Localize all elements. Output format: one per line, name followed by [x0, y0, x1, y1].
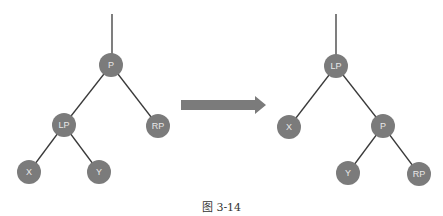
node-label: Y [345, 168, 351, 178]
node-lp: LP [52, 113, 76, 137]
node-rp: RP [146, 114, 170, 138]
node-label: LP [330, 61, 341, 71]
node-label: LP [58, 120, 69, 130]
node-lp: LP [324, 54, 348, 78]
node-label: X [26, 167, 32, 177]
node-y: Y [336, 161, 360, 185]
node-label: P [108, 60, 114, 70]
arrow-right-icon [181, 96, 266, 114]
rotation-diagram: PLPRPXYLPXPYRP [0, 0, 443, 216]
node-x: X [17, 160, 41, 184]
tree-after: LPXPYRP [277, 14, 431, 186]
tree-before: PLPRPXY [17, 14, 170, 184]
node-label: P [380, 121, 386, 131]
node-p: P [99, 53, 123, 77]
node-rp: RP [407, 162, 431, 186]
figure-caption: 图 3-14 [0, 198, 443, 214]
node-label: RP [413, 169, 426, 179]
node-label: X [286, 122, 292, 132]
node-x: X [277, 115, 301, 139]
node-label: RP [152, 121, 165, 131]
node-y: Y [87, 160, 111, 184]
node-p: P [371, 114, 395, 138]
node-label: Y [96, 167, 102, 177]
